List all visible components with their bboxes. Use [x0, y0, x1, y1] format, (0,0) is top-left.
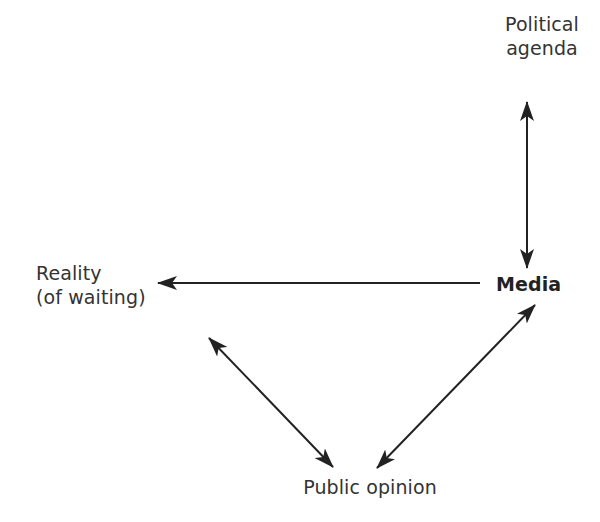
- political-agenda-line1: Political: [486, 12, 598, 36]
- diagram-canvas: Political agenda Reality (of waiting) Me…: [0, 0, 600, 522]
- reality-line2: (of waiting): [36, 285, 146, 309]
- edge-media-public-arrow: [377, 305, 535, 468]
- node-media: Media: [496, 272, 561, 296]
- node-public-opinion: Public opinion: [272, 475, 468, 499]
- media-label: Media: [496, 273, 561, 295]
- reality-line1: Reality: [36, 261, 146, 285]
- political-agenda-line2: agenda: [486, 36, 598, 60]
- edge-reality-public-arrow: [209, 338, 333, 467]
- node-political-agenda: Political agenda: [486, 12, 598, 60]
- node-reality: Reality (of waiting): [36, 261, 146, 309]
- public-opinion-label: Public opinion: [303, 476, 437, 498]
